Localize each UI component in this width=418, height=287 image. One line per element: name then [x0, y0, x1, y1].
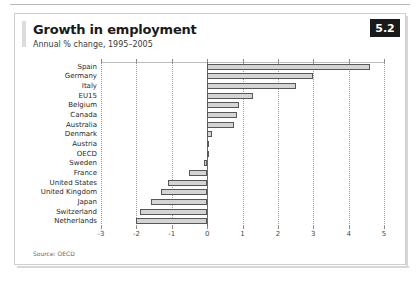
bar [207, 112, 237, 118]
x-tick-label: 1 [240, 230, 244, 238]
x-tick-mark [243, 226, 244, 229]
category-label: Switzerland [56, 208, 97, 216]
x-tick-mark [349, 226, 350, 229]
category-label: Spain [77, 63, 97, 71]
category-label: Germany [65, 72, 97, 80]
bar-row: Japan [101, 197, 384, 207]
bar-row: United Kingdom [101, 187, 384, 197]
category-label: Denmark [65, 130, 97, 138]
bar-row: Canada [101, 110, 384, 120]
x-tick-mark [101, 226, 102, 229]
x-tick-mark [207, 226, 208, 229]
bar-row: Sweden [101, 158, 384, 168]
category-label: Canada [70, 111, 97, 119]
x-tick-mark [278, 226, 279, 229]
bar [207, 151, 209, 157]
category-label: Netherlands [54, 217, 97, 225]
x-tick-label: 0 [205, 230, 209, 238]
card-shadow-bottom [17, 266, 409, 268]
x-tick-mark [313, 226, 314, 229]
x-tick-mark [136, 226, 137, 229]
bar-row: Italy [101, 81, 384, 91]
x-tick-label: 5 [382, 230, 386, 238]
bar-row: Switzerland [101, 207, 384, 217]
category-label: Italy [82, 82, 97, 90]
bar [151, 199, 208, 205]
x-tick-label: 4 [346, 230, 350, 238]
bar-row: France [101, 168, 384, 178]
x-tick-label: -2 [133, 230, 140, 238]
bar-row: EU15 [101, 91, 384, 101]
bar-row: Germany [101, 72, 384, 82]
bar-row: Australia [101, 120, 384, 130]
bar [204, 160, 208, 166]
gridline [384, 62, 385, 226]
bar-row: OECD [101, 149, 384, 159]
category-label: Australia [66, 121, 97, 129]
category-label: United States [50, 179, 97, 187]
x-tick-label: 2 [276, 230, 280, 238]
plot-area: -3-2-1012345SpainGermanyItalyEU15Belgium… [101, 62, 384, 226]
category-label: United Kingdom [41, 188, 97, 196]
card-shadow-right [406, 16, 408, 268]
bar [207, 122, 234, 128]
bar [140, 209, 207, 215]
bar [207, 73, 313, 79]
source-note: Source: OECD [33, 250, 75, 257]
bar [207, 83, 295, 89]
category-label: Austria [72, 140, 97, 148]
figure-page: Growth in employment Annual % change, 19… [0, 0, 418, 287]
x-tick-mark [172, 226, 173, 229]
page-top-rule [10, 4, 410, 5]
bar [207, 131, 212, 137]
bar-row: United States [101, 178, 384, 188]
bar [189, 170, 207, 176]
x-tick-label: -1 [168, 230, 175, 238]
bar [207, 93, 253, 99]
x-tick-mark [384, 226, 385, 229]
bar [207, 64, 370, 70]
bar-row: Denmark [101, 130, 384, 140]
x-tick-label: -3 [98, 230, 105, 238]
category-label: France [74, 169, 97, 177]
figure-card: Growth in employment Annual % change, 19… [14, 13, 406, 265]
x-tick-label: 3 [311, 230, 315, 238]
category-label: Japan [77, 198, 97, 206]
bar-row: Austria [101, 139, 384, 149]
category-label: EU15 [79, 92, 97, 100]
category-label: Sweden [69, 159, 97, 167]
x-tick-mark-top [384, 59, 385, 62]
bar-chart: -3-2-1012345SpainGermanyItalyEU15Belgium… [15, 14, 407, 266]
category-label: OECD [77, 150, 97, 158]
bar [161, 189, 207, 195]
bar [168, 180, 207, 186]
category-label: Belgium [68, 101, 97, 109]
bar-row: Spain [101, 62, 384, 72]
bar [207, 102, 239, 108]
bar-row: Belgium [101, 101, 384, 111]
bar-row: Netherlands [101, 216, 384, 226]
bar [136, 218, 207, 224]
bar [207, 141, 209, 147]
